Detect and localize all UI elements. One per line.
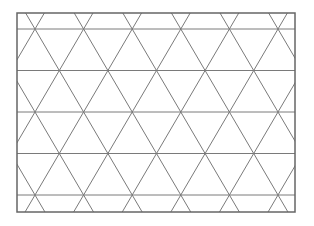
- grid-lines: [0, 3, 314, 222]
- triangular-grid-diagram: [0, 0, 314, 226]
- diagonal-grid-line: [311, 3, 314, 222]
- diagonal-grid-line: [311, 3, 314, 222]
- diagonal-grid-line: [0, 3, 2, 222]
- triangular-grid-svg: [0, 0, 314, 226]
- diagonal-grid-line: [0, 3, 2, 222]
